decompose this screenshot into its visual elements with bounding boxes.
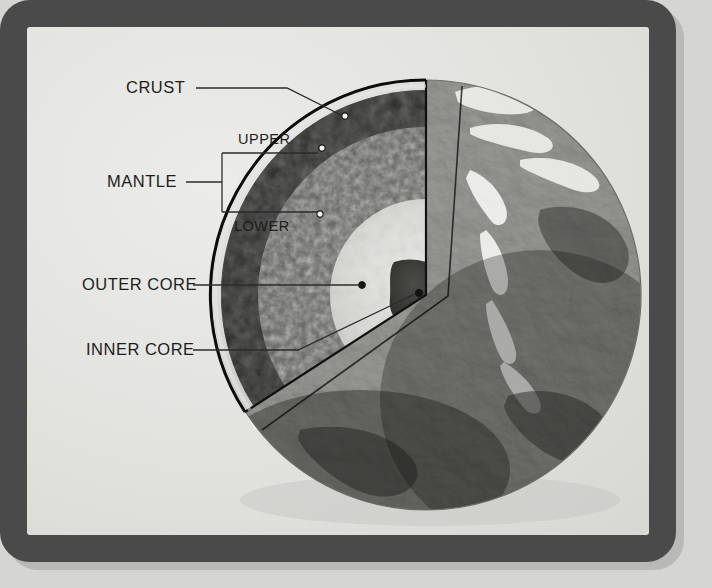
label-mantle: MANTLE <box>107 172 177 191</box>
dot-inner-core <box>415 289 422 296</box>
dot-crust <box>342 113 348 119</box>
label-outer-core: OUTER CORE <box>82 275 197 294</box>
dot-lower-mantle <box>317 211 323 217</box>
dot-upper-mantle <box>319 145 325 151</box>
figure-canvas: CRUST MANTLE UPPER LOWER OUTER CORE INNE… <box>0 0 712 588</box>
earth-cutaway-illustration <box>0 0 712 588</box>
label-upper-mantle: UPPER <box>238 131 290 147</box>
dot-outer-core <box>359 282 366 289</box>
label-inner-core: INNER CORE <box>86 340 195 359</box>
label-crust: CRUST <box>126 78 185 97</box>
globe-group <box>210 80 700 550</box>
label-lower-mantle: LOWER <box>234 218 290 234</box>
